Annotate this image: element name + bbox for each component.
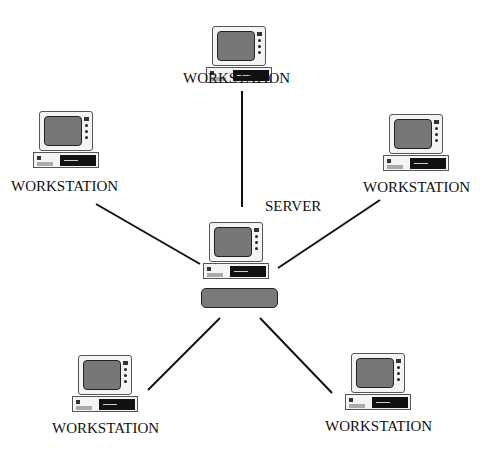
workstation-lower-left-label: WORKSTATION	[52, 420, 159, 437]
link-upper-left	[96, 204, 200, 264]
workstation-lower-right-label: WORKSTATION	[325, 418, 432, 435]
monitor	[212, 26, 266, 66]
computer-base	[33, 152, 99, 168]
monitor	[39, 111, 93, 151]
server-keyboard	[201, 288, 278, 308]
workstation-top-label: WORKSTATION	[183, 70, 290, 87]
monitor	[351, 353, 405, 393]
workstation-lower-right	[345, 353, 411, 409]
computer-base	[345, 394, 411, 410]
workstation-upper-left	[33, 111, 99, 167]
monitor	[209, 222, 263, 262]
computer-base	[72, 396, 138, 412]
link-lower-left	[148, 318, 220, 390]
workstation-upper-right	[383, 114, 449, 170]
monitor	[389, 114, 443, 154]
workstation-lower-left	[72, 355, 138, 411]
computer-base	[203, 263, 269, 279]
monitor	[78, 355, 132, 395]
workstation-upper-right-label: WORKSTATION	[363, 179, 470, 196]
computer-base	[383, 155, 449, 171]
server-label: SERVER	[265, 198, 321, 215]
server-computer	[203, 222, 269, 278]
link-lower-right	[260, 318, 332, 393]
workstation-upper-left-label: WORKSTATION	[11, 178, 118, 195]
